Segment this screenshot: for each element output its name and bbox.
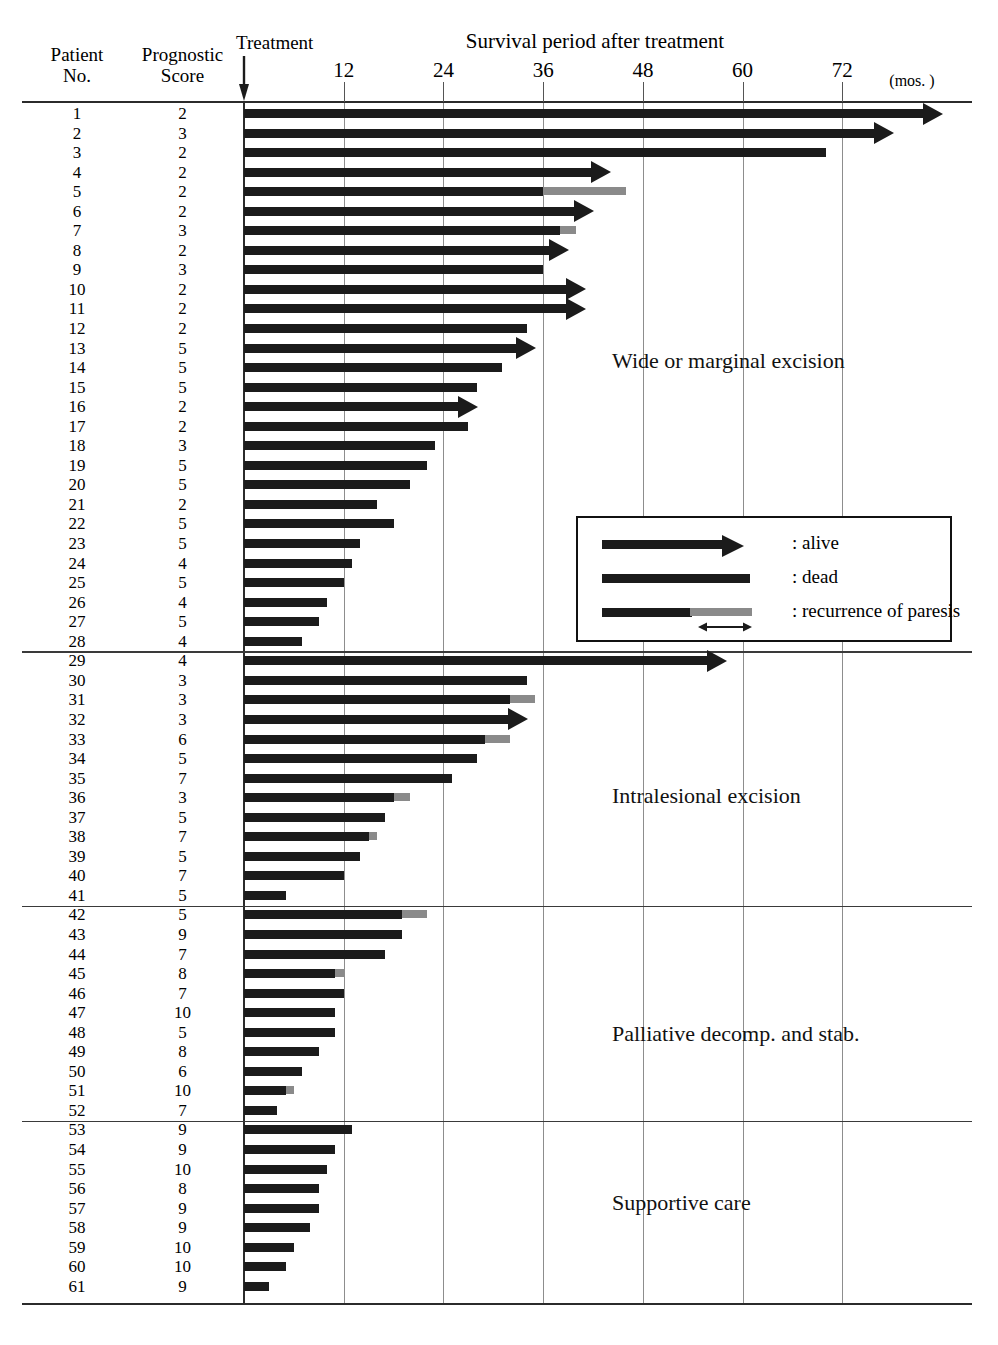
alive-arrowhead-icon: [458, 396, 478, 418]
prognostic-score: 5: [120, 1023, 245, 1042]
prognostic-score: 2: [120, 280, 245, 299]
patient-number: 37: [22, 808, 132, 827]
alive-arrowhead-icon: [923, 103, 943, 125]
table-row: 395: [0, 847, 998, 867]
survival-bar-solid: [244, 246, 551, 255]
recurrence-of-paresis-segment: [369, 832, 377, 840]
survival-bar-solid: [244, 1165, 327, 1174]
patient-number: 32: [22, 710, 132, 729]
survival-bar-solid: [244, 793, 394, 802]
legend-recurrence-bar: [602, 608, 692, 617]
legend-recurrence-gray-segment: [690, 608, 752, 616]
prognostic-score: 2: [120, 319, 245, 338]
survival-bar-solid: [244, 324, 527, 333]
patient-number: 21: [22, 495, 132, 514]
table-row: 52: [0, 182, 998, 202]
tick-72mo: [842, 82, 843, 102]
survival-bar-solid: [244, 578, 344, 587]
patient-number: 38: [22, 827, 132, 846]
survival-bar-solid: [244, 129, 876, 138]
prognostic-score: 9: [120, 1199, 245, 1218]
patient-number: 34: [22, 749, 132, 768]
legend-recurrence-text: : recurrence of paresis: [792, 600, 960, 622]
survival-bar-solid: [244, 207, 576, 216]
survival-bar-solid: [244, 441, 435, 450]
column-header-score-line1: Prognostic: [120, 44, 245, 65]
patient-number: 6: [22, 202, 132, 221]
survival-bar-solid: [244, 774, 452, 783]
alive-arrowhead-icon: [874, 122, 894, 144]
tick-36mo: [543, 82, 544, 102]
prognostic-score: 5: [120, 456, 245, 475]
prognostic-score: 8: [120, 1179, 245, 1198]
patient-number: 9: [22, 260, 132, 279]
table-row: 112: [0, 299, 998, 319]
patient-number: 39: [22, 847, 132, 866]
survival-bar-solid: [244, 1086, 286, 1095]
prognostic-score: 3: [120, 436, 245, 455]
table-row: 5110: [0, 1081, 998, 1101]
patient-number: 3: [22, 143, 132, 162]
table-row: 439: [0, 925, 998, 945]
prognostic-score: 4: [120, 651, 245, 670]
patient-number: 58: [22, 1218, 132, 1237]
table-row: 205: [0, 475, 998, 495]
survival-bar-solid: [244, 1008, 335, 1017]
recurrence-of-paresis-segment: [402, 910, 427, 918]
survival-bar-solid: [244, 383, 477, 392]
legend-dead-bar: [602, 574, 750, 583]
table-row: 549: [0, 1140, 998, 1160]
column-header-score-line2: Score: [120, 65, 245, 86]
survival-bar-solid: [244, 695, 510, 704]
patient-number: 22: [22, 514, 132, 533]
survival-bar-solid: [244, 168, 593, 177]
patient-number: 31: [22, 690, 132, 709]
prognostic-score: 4: [120, 593, 245, 612]
survival-bar-solid: [244, 559, 352, 568]
table-row: 363: [0, 788, 998, 808]
patient-number: 17: [22, 417, 132, 436]
prognostic-score: 10: [120, 1003, 245, 1022]
patient-number: 35: [22, 769, 132, 788]
table-row: 425: [0, 905, 998, 925]
prognostic-score: 6: [120, 730, 245, 749]
group-label: Palliative decomp. and stab.: [612, 1021, 859, 1047]
legend-alive-text: : alive: [792, 532, 839, 554]
prognostic-score: 5: [120, 573, 245, 592]
survival-bar-solid: [244, 1145, 335, 1154]
legend-dead-text: : dead: [792, 566, 838, 588]
recurrence-of-paresis-segment: [543, 187, 626, 195]
survival-bar-solid: [244, 950, 385, 959]
survival-bar-solid: [244, 265, 543, 274]
tick-label-12mo: 12: [314, 58, 374, 83]
tick-label-24mo: 24: [413, 58, 473, 83]
table-row: 336: [0, 730, 998, 750]
patient-number: 52: [22, 1101, 132, 1120]
patient-number: 60: [22, 1257, 132, 1276]
patient-number: 28: [22, 632, 132, 651]
group-label: Supportive care: [612, 1190, 751, 1216]
survival-bar-solid: [244, 1223, 310, 1232]
table-row: 294: [0, 651, 998, 671]
survival-bar-solid: [244, 539, 360, 548]
table-row: 407: [0, 866, 998, 886]
prognostic-score: 5: [120, 534, 245, 553]
patient-number: 56: [22, 1179, 132, 1198]
patient-number: 8: [22, 241, 132, 260]
survival-bar-solid: [244, 871, 344, 880]
survival-bar-solid: [244, 637, 302, 646]
survival-bar-solid: [244, 1243, 294, 1252]
alive-arrowhead-icon: [549, 239, 569, 261]
patient-number: 44: [22, 945, 132, 964]
prognostic-score: 7: [120, 769, 245, 788]
prognostic-score: 2: [120, 397, 245, 416]
tick-label-72mo: 72: [812, 58, 872, 83]
table-row: 313: [0, 690, 998, 710]
prognostic-score: 5: [120, 514, 245, 533]
prognostic-score: 9: [120, 1277, 245, 1296]
prognostic-score: 5: [120, 378, 245, 397]
axis-unit-label: (mos. ): [872, 72, 952, 90]
survival-bar-solid: [244, 754, 477, 763]
table-row: 93: [0, 260, 998, 280]
prognostic-score: 7: [120, 866, 245, 885]
